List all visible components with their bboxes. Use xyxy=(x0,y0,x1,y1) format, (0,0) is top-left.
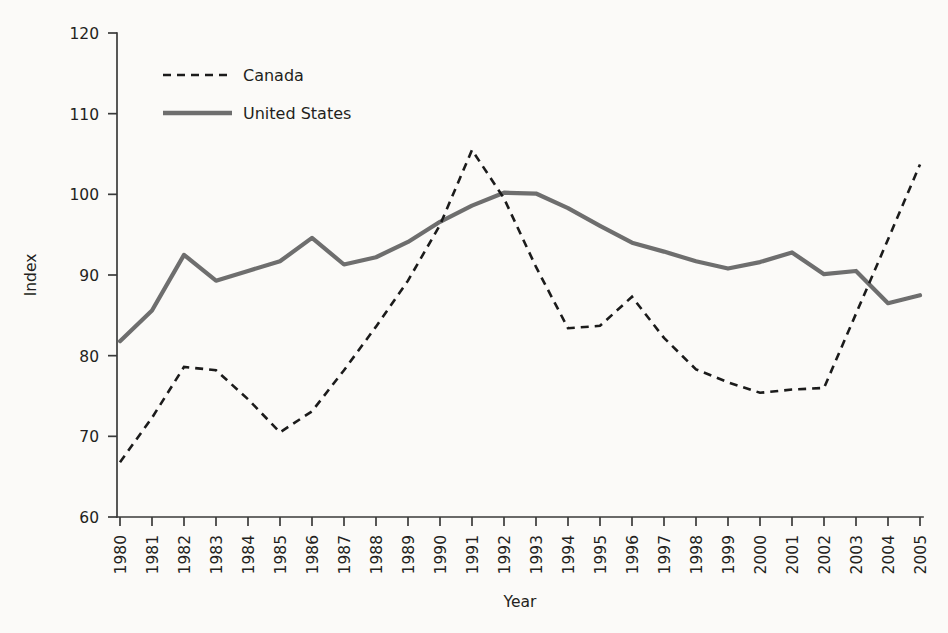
y-tick-label: 90 xyxy=(79,267,99,285)
x-tick-label: 2005 xyxy=(912,535,930,574)
y-tick-label: 110 xyxy=(69,106,99,124)
x-tick-label: 2004 xyxy=(880,535,898,574)
x-tick-label: 1984 xyxy=(240,535,258,574)
x-tick-label: 1993 xyxy=(528,535,546,574)
x-tick-label: 1998 xyxy=(688,535,706,574)
x-tick-label: 2002 xyxy=(816,535,834,574)
x-tick-label: 1996 xyxy=(624,535,642,574)
y-tick-label: 80 xyxy=(79,348,99,366)
x-tick-label: 1990 xyxy=(432,535,450,574)
legend-label-canada: Canada xyxy=(243,66,304,85)
x-tick-label: 1983 xyxy=(208,535,226,574)
x-tick-label: 1992 xyxy=(496,535,514,574)
chart-container: 60708090100110120 1980198119821983198419… xyxy=(0,0,948,633)
x-tick-label: 1981 xyxy=(144,535,162,574)
x-tick-label: 1982 xyxy=(176,535,194,574)
y-tick-label: 100 xyxy=(69,186,99,204)
x-tick-label: 1994 xyxy=(560,535,578,574)
x-tick-label: 1985 xyxy=(272,535,290,574)
line-chart-figure: 60708090100110120 1980198119821983198419… xyxy=(0,0,948,633)
y-tick-label: 120 xyxy=(69,25,99,43)
y-tick-label: 60 xyxy=(79,509,99,527)
x-tick-label: 1989 xyxy=(400,535,418,574)
x-tick-label: 1995 xyxy=(592,535,610,574)
x-tick-label: 2000 xyxy=(752,535,770,574)
x-tick-label: 1980 xyxy=(112,535,130,574)
x-axis-title: Year xyxy=(503,593,537,611)
x-tick-label: 1997 xyxy=(656,535,674,574)
x-tick-label: 2001 xyxy=(784,535,802,574)
x-tick-label: 1987 xyxy=(336,535,354,574)
x-tick-label: 1988 xyxy=(368,535,386,574)
x-tick-label: 2003 xyxy=(848,535,866,574)
x-tick-label: 1986 xyxy=(304,535,322,574)
y-tick-label: 70 xyxy=(79,428,99,446)
x-tick-label: 1991 xyxy=(464,535,482,574)
x-tick-label: 1999 xyxy=(720,535,738,574)
y-axis-title: Index xyxy=(22,254,40,297)
legend-label-united-states: United States xyxy=(243,104,351,123)
